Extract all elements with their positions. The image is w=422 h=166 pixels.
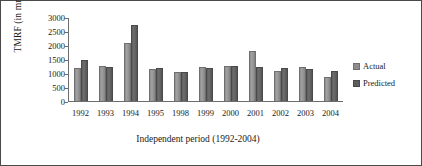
chart-figure: TMRF (in mm.) 050010001500200025003000 1… xyxy=(0,0,422,166)
bar-actual-1998 xyxy=(174,72,181,101)
bar-predicted-2000 xyxy=(231,66,238,101)
bar-actual-2002 xyxy=(274,71,281,101)
y-axis-tick-labels: 050010001500200025003000 xyxy=(31,12,65,108)
y-axis-title: TMRF (in mm.) xyxy=(13,0,29,71)
y-axis-tick-label: 3000 xyxy=(48,13,65,23)
bar-actual-1993 xyxy=(99,66,106,101)
bar-predicted-1995 xyxy=(156,68,163,101)
bar-actual-2004 xyxy=(324,77,331,101)
bar-actual-1992 xyxy=(74,68,81,101)
bar-groups xyxy=(69,18,343,101)
legend-swatch-icon xyxy=(353,63,360,70)
bar-actual-2003 xyxy=(299,67,306,101)
chart-legend: ActualPredicted xyxy=(353,61,421,95)
bar-actual-1994 xyxy=(124,43,131,101)
bar-predicted-1992 xyxy=(81,60,88,101)
y-axis-tick-label: 1500 xyxy=(48,55,65,65)
x-axis-tick-label: 2003 xyxy=(293,107,318,121)
bar-group xyxy=(218,18,243,101)
x-axis-tick-label: 1998 xyxy=(168,107,193,121)
bar-actual-1995 xyxy=(149,69,156,101)
bar-predicted-1994 xyxy=(131,25,138,101)
bar-group xyxy=(169,18,194,101)
x-axis-tick-label: 2000 xyxy=(218,107,243,121)
legend-swatch-icon xyxy=(353,80,360,87)
y-axis-tick-label: 2000 xyxy=(48,41,65,51)
y-axis-tick-label: 2500 xyxy=(48,27,65,37)
legend-label: Predicted xyxy=(363,78,395,88)
x-axis-tick-label: 1993 xyxy=(93,107,118,121)
y-axis-tick-label: 1000 xyxy=(48,69,65,79)
bar-predicted-1999 xyxy=(206,68,213,101)
y-axis-tick-mark xyxy=(64,102,68,103)
bar-predicted-1993 xyxy=(106,67,113,101)
bar-predicted-2002 xyxy=(281,68,288,101)
bar-group xyxy=(144,18,169,101)
bar-group xyxy=(94,18,119,101)
bar-group xyxy=(69,18,94,101)
bar-group xyxy=(194,18,219,101)
plot-area xyxy=(68,18,343,102)
legend-item-actual: Actual xyxy=(353,61,421,71)
bar-predicted-2001 xyxy=(256,67,263,101)
x-axis-tick-label: 2001 xyxy=(243,107,268,121)
bar-predicted-2004 xyxy=(331,71,338,101)
bar-actual-2000 xyxy=(224,66,231,101)
bar-group xyxy=(243,18,268,101)
bar-group xyxy=(318,18,343,101)
legend-label: Actual xyxy=(363,61,386,71)
x-axis-tick-labels: 1992199319941995199819992000200120022003… xyxy=(68,107,343,121)
bar-group xyxy=(268,18,293,101)
x-axis-tick-label: 1999 xyxy=(193,107,218,121)
x-axis-tick-label: 1995 xyxy=(143,107,168,121)
x-axis-tick-label: 1992 xyxy=(68,107,93,121)
x-axis-tick-label: 1994 xyxy=(118,107,143,121)
bar-group xyxy=(119,18,144,101)
x-axis-tick-label: 2002 xyxy=(268,107,293,121)
bar-actual-1999 xyxy=(199,67,206,101)
bar-group xyxy=(293,18,318,101)
legend-item-predicted: Predicted xyxy=(353,78,421,88)
x-axis-tick-label: 2004 xyxy=(318,107,343,121)
bar-predicted-1998 xyxy=(181,72,188,101)
bar-actual-2001 xyxy=(249,51,256,101)
bar-predicted-2003 xyxy=(306,69,313,101)
x-axis-title: Independent period (1992-2004) xyxy=(48,134,348,144)
